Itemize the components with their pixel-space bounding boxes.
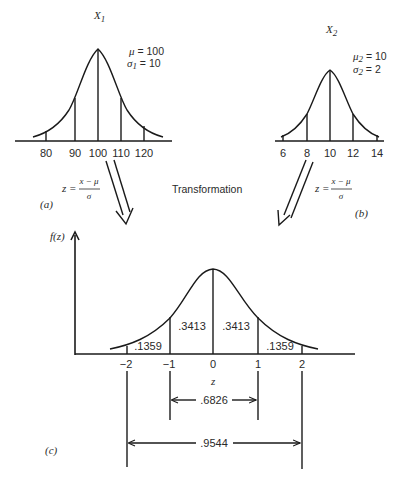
panel-a-tag: (a) <box>40 198 53 211</box>
panel-a-mu-label: μ = 100 <box>128 45 164 57</box>
figure-canvas: X1 μ = 100 σ1 = 10 80 90 100 110 120 z =… <box>0 0 394 477</box>
panel-c-tick-neg1: −1 <box>163 358 176 370</box>
panel-a-tick-80: 80 <box>40 147 52 159</box>
panel-c-area-neg1-0: .3413 <box>178 320 206 332</box>
panel-c-tick-1: 1 <box>255 358 261 370</box>
panel-a-title: X1 <box>93 9 105 24</box>
panel-b-tick-14: 14 <box>371 147 383 159</box>
panel-b-title: X2 <box>325 23 338 38</box>
panel-b-formula-lhs: z = <box>314 182 329 194</box>
panel-c-tag: (c) <box>45 444 58 457</box>
panel-c-tick-0: 0 <box>210 358 216 370</box>
panel-b-sigma-label: σ2 = 2 <box>353 63 381 77</box>
panel-a-formula-numerator: x − μ <box>78 176 99 186</box>
panel-b-x2-distribution: X2 μ2 = 10 σ2 = 2 6 8 10 12 14 z = x − μ… <box>275 23 387 225</box>
panel-c-bell-curve <box>110 269 318 349</box>
panel-b-formula-numerator: x − μ <box>330 176 351 186</box>
panel-a-tick-90: 90 <box>69 147 81 159</box>
panel-a-tick-120: 120 <box>135 147 153 159</box>
panel-b-mu-label: μ2 = 10 <box>352 50 387 64</box>
panel-a-formula-denominator: σ <box>87 191 92 201</box>
panel-c-tick-2: 2 <box>299 358 305 370</box>
panel-b-transform-arrow <box>278 160 313 225</box>
panel-c-bracket-inner-label: .6826 <box>200 394 228 406</box>
panel-a-tick-100: 100 <box>89 147 107 159</box>
panel-c-x-label: z <box>210 375 216 387</box>
panel-b-tick-10: 10 <box>324 147 336 159</box>
panel-c-area-neg2-neg1: .1359 <box>134 340 162 352</box>
panel-b-tick-6: 6 <box>280 147 286 159</box>
panel-c-y-label: f(z) <box>50 230 65 243</box>
panel-c-area-1-2: .1359 <box>266 340 294 352</box>
panel-c-standard-normal: f(z) .1359 .3413 .3413 .1359 −2 −1 0 1 2… <box>45 230 355 469</box>
transformation-label: Transformation <box>172 183 242 195</box>
panel-c-area-0-1: .3413 <box>222 320 250 332</box>
panel-c-bracket-outer-label: .9544 <box>200 437 228 449</box>
panel-b-tick-8: 8 <box>304 147 310 159</box>
panel-b-tick-12: 12 <box>347 147 359 159</box>
panel-c-tick-neg2: −2 <box>120 358 133 370</box>
panel-a-transform-arrow <box>106 160 133 224</box>
panel-a-tick-110: 110 <box>112 147 130 159</box>
panel-b-tag: (b) <box>355 207 368 220</box>
panel-a-formula-lhs: z = <box>61 182 76 194</box>
panel-b-formula-denominator: σ <box>339 191 344 201</box>
panel-a-x1-distribution: X1 μ = 100 σ1 = 10 80 90 100 110 120 z =… <box>15 9 172 224</box>
normal-transformation-figure: X1 μ = 100 σ1 = 10 80 90 100 110 120 z =… <box>0 0 394 477</box>
panel-a-sigma-label: σ1 = 10 <box>127 57 161 71</box>
